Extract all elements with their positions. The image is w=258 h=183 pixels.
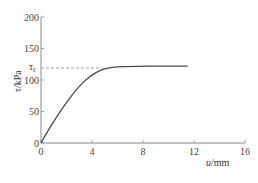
tick-labels: 0481216050100150200 — [24, 12, 250, 158]
y-tick-label: 200 — [24, 12, 39, 23]
y-tick-label: 100 — [24, 75, 39, 86]
x-tick-label: 16 — [240, 146, 250, 157]
y-axis-label: τ/kPa — [12, 70, 23, 92]
y-tick-label: 50 — [29, 106, 39, 117]
y-tick-label: 150 — [24, 43, 39, 54]
x-tick-label: 0 — [39, 146, 44, 157]
x-tick-label: 12 — [189, 146, 199, 157]
tau-f-label: τf — [29, 61, 36, 74]
axes — [41, 17, 245, 143]
x-tick-label: 4 — [90, 146, 95, 157]
chart-canvas: 0481216050100150200 τf τ/kPa u/mm — [0, 0, 258, 183]
x-tick-label: 8 — [141, 146, 146, 157]
x-axis-label: u/mm — [206, 157, 230, 168]
stress-displacement-curve — [41, 66, 188, 143]
y-tick-label: 0 — [34, 138, 39, 149]
